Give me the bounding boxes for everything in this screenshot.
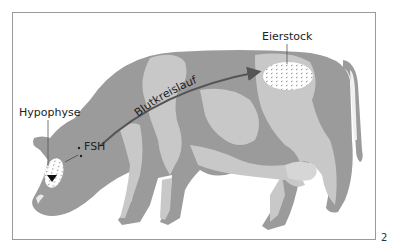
udder: [285, 162, 317, 181]
figure-number: 2: [381, 232, 387, 243]
eierstock-label: Eierstock: [262, 30, 313, 43]
cow-illustration: Blutkreislauf: [0, 0, 393, 250]
fsh-label: FSH: [84, 140, 105, 153]
ovary: [263, 62, 313, 90]
hypophyse-label: Hypophyse: [19, 106, 80, 119]
